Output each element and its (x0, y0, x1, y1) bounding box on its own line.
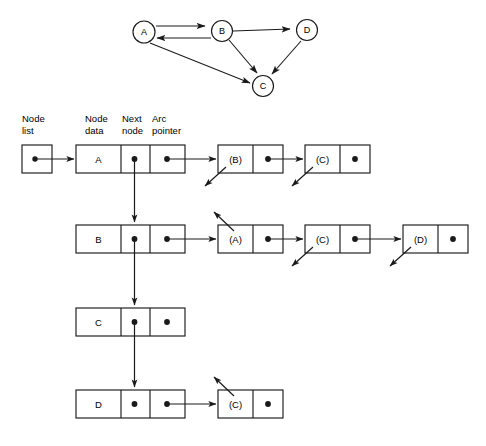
figure-container: A B D C Node list Node data Next node Ar… (0, 0, 486, 446)
row-b-arc-2-box (403, 225, 468, 253)
row-a-arc-1-dot (352, 156, 358, 162)
label-arc-pointer-line2: pointer (152, 125, 181, 136)
label-node-list-line2: list (22, 125, 34, 136)
graph-node-b-label: B (219, 26, 225, 36)
row-a-arc-node-1: (C) (292, 145, 370, 186)
label-node-list-line1: Node (22, 113, 45, 124)
label-next-node-line1: Next (122, 113, 142, 124)
graph-node-d-label: D (304, 25, 311, 35)
row-d-arc-node-0: (C) (214, 377, 283, 418)
row-b-arc-1-label: (C) (316, 234, 329, 245)
row-d-data-label: D (95, 399, 102, 410)
row-b-arc-node-0: (A) (214, 212, 303, 253)
row-b-arc-node-2: (D) (390, 225, 468, 266)
row-a-arc-1-in-arrow (292, 167, 313, 186)
graph-edge-b-c (229, 40, 257, 73)
row-a-arc-node-0: (B) (205, 145, 303, 186)
graph-node-a-label: A (141, 27, 147, 37)
row-b-arc-node-1: (C) (292, 225, 401, 266)
row-b-arc-2-in-arrow (390, 247, 411, 266)
graph-node-c-label: C (260, 81, 267, 91)
graph-edge-d-c (272, 41, 301, 74)
list-row-c: C (76, 308, 185, 387)
label-arc-pointer-line1: Arc (152, 113, 167, 124)
row-b-arc-0-label: (A) (229, 234, 242, 245)
row-b-arc-2-label: (D) (414, 234, 427, 245)
row-b-arc-1-in-arrow (292, 247, 313, 266)
row-a-arc-0-in-arrow (205, 167, 226, 186)
node-list-head (22, 145, 74, 173)
row-a-data-label: A (95, 154, 102, 165)
row-d-next-dot (132, 401, 138, 407)
graph-diagram: A B D C (133, 20, 318, 97)
row-d-arc-0-label: (C) (229, 399, 242, 410)
row-c-arc-dot (164, 319, 170, 325)
row-a-arc-1-box (305, 145, 370, 173)
list-row-b: B (A) (C) (76, 212, 468, 305)
row-b-arc-2-dot (450, 236, 456, 242)
label-node-data-line1: Node (85, 113, 108, 124)
label-node-data-line2: data (85, 125, 104, 136)
list-row-d: D (C) (76, 377, 283, 418)
row-b-data-label: B (95, 234, 101, 245)
list-row-a: A (B) (C) (76, 145, 370, 222)
label-next-node-line2: node (122, 125, 143, 136)
row-a-arc-0-label: (B) (229, 154, 242, 165)
row-d-arc-0-box (218, 390, 283, 418)
row-d-arc-0-dot (265, 401, 271, 407)
row-c-data-label: C (95, 317, 102, 328)
graph-edge-a-c (150, 43, 250, 83)
column-labels: Node list Node data Next node Arc pointe… (22, 113, 181, 136)
diagram-canvas: A B D C Node list Node data Next node Ar… (0, 0, 486, 446)
graph-edge-b-d (233, 29, 290, 31)
row-a-arc-1-label: (C) (316, 154, 329, 165)
